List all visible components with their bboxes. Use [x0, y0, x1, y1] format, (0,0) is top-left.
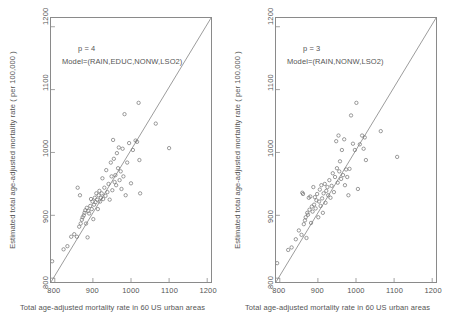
data-point — [335, 167, 338, 170]
x-tick-900-left: 900 — [86, 286, 99, 295]
data-point — [109, 161, 112, 164]
data-point — [294, 238, 297, 241]
data-point — [348, 167, 351, 170]
data-point — [338, 160, 341, 163]
data-point — [362, 147, 365, 150]
data-point — [137, 101, 140, 104]
data-point — [287, 248, 290, 251]
data-point — [118, 178, 121, 181]
data-point — [122, 175, 125, 178]
data-point — [332, 190, 335, 193]
data-point — [127, 141, 130, 144]
y-tick-1200-left: 1200 — [41, 8, 50, 26]
x-tick-800-left: 800 — [47, 286, 60, 295]
data-point — [326, 185, 329, 188]
data-point — [124, 194, 127, 197]
y-tick-1000-right: 1000 — [266, 140, 275, 158]
data-point — [95, 192, 98, 195]
annotation-model-left: Model=(RAIN,EDUC,NONW,LSO2) — [62, 57, 182, 66]
data-point — [312, 203, 315, 206]
x-axis-title-left: Total age-adjusted mortality rate in 60 … — [0, 303, 225, 312]
data-point — [120, 187, 123, 190]
data-point — [297, 229, 300, 232]
x-tick-1200-left: 1200 — [199, 286, 217, 295]
data-point — [321, 211, 324, 214]
data-point — [335, 140, 338, 143]
data-point — [111, 189, 114, 192]
data-point — [305, 236, 308, 239]
data-point — [110, 175, 113, 178]
data-point — [351, 142, 354, 145]
x-tick-900-right: 900 — [311, 286, 324, 295]
data-point — [331, 172, 334, 175]
data-point — [318, 188, 321, 191]
data-point — [92, 217, 95, 220]
data-point — [117, 146, 120, 149]
data-point — [320, 184, 323, 187]
data-point — [310, 205, 313, 208]
data-point — [107, 182, 110, 185]
panel-left: Estimated total age-adjusted mortality r… — [0, 0, 225, 325]
data-point — [290, 246, 293, 249]
y-axis-title-right: Estimated total age-adjusted mortality r… — [233, 0, 242, 17]
data-point — [90, 207, 93, 210]
data-point — [302, 222, 305, 225]
data-point — [138, 158, 141, 161]
data-point — [349, 114, 352, 117]
data-point — [116, 167, 119, 170]
data-point — [330, 184, 333, 187]
data-point — [346, 175, 349, 178]
data-point — [379, 129, 382, 132]
x-tick-1000-left: 1000 — [122, 286, 140, 295]
y-axis-right: Estimated total age-adjusted mortality r… — [225, 0, 275, 300]
x-tick-1000-right: 1000 — [347, 286, 365, 295]
annotation-p-right: p = 3 — [303, 44, 320, 53]
data-point — [338, 170, 341, 173]
data-point — [395, 155, 398, 158]
data-point — [340, 148, 343, 151]
data-point — [101, 177, 104, 180]
data-point — [103, 186, 106, 189]
data-point — [138, 192, 141, 195]
data-point — [111, 138, 114, 141]
data-point — [343, 138, 346, 141]
data-point — [344, 168, 347, 171]
data-point — [100, 192, 103, 195]
data-point — [167, 146, 170, 149]
data-point — [129, 182, 132, 185]
y-tick-1000-left: 1000 — [41, 140, 50, 158]
x-tick-800-right: 800 — [272, 286, 285, 295]
y-axis-left: Estimated total age-adjusted mortality r… — [0, 0, 50, 300]
data-points-right — [276, 101, 399, 265]
y-axis-title-left: Estimated total age-adjusted mortality r… — [8, 0, 17, 17]
data-point — [114, 184, 117, 187]
data-point — [131, 148, 134, 151]
data-point — [78, 194, 81, 197]
data-point — [86, 236, 89, 239]
data-point — [329, 196, 332, 199]
data-point — [356, 187, 359, 190]
data-point — [315, 192, 318, 195]
data-point — [339, 177, 342, 180]
data-point — [312, 185, 315, 188]
data-point — [333, 175, 336, 178]
annotation-model-right: Model=(RAIN,NONW,LSO2) — [287, 57, 384, 66]
x-axis-title-right: Total age-adjusted mortality rate in 60 … — [225, 303, 450, 312]
data-point — [121, 147, 124, 150]
data-points-left — [51, 101, 171, 263]
data-point — [104, 194, 107, 197]
data-point — [119, 170, 122, 173]
x-tick-1200-right: 1200 — [424, 286, 442, 295]
data-point — [76, 186, 79, 189]
data-point — [154, 122, 157, 125]
data-point — [355, 101, 358, 104]
x-tick-1100-right: 1100 — [386, 286, 403, 295]
data-point — [343, 184, 346, 187]
data-point — [300, 233, 303, 236]
data-point — [115, 151, 118, 154]
data-point — [108, 198, 111, 201]
y-tick-900-right: 900 — [266, 210, 275, 223]
data-point — [105, 168, 108, 171]
data-point — [320, 197, 323, 200]
data-point — [70, 235, 73, 238]
